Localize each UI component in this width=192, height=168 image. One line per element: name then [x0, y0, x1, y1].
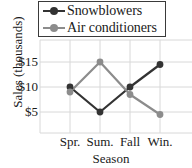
legend-marker-icon — [43, 4, 65, 17]
legend-marker-icon — [43, 21, 65, 34]
y-axis-tick-label: $10 — [2, 80, 38, 93]
data-point-marker — [127, 84, 134, 91]
legend-entry-air-conditioners: Air conditioners — [43, 19, 157, 36]
data-point-marker — [67, 89, 74, 96]
data-point-marker — [157, 111, 164, 118]
x-axis-title: Season — [56, 151, 166, 167]
y-axis-tick-label: $5 — [2, 105, 38, 118]
y-axis-ticks: $15$10$5 — [0, 0, 38, 168]
chart-legend: Snowblowers Air conditioners — [38, 1, 166, 37]
x-axis-tick-label: Win. — [140, 135, 180, 149]
data-point-marker — [127, 91, 134, 98]
y-axis-tick-label: $15 — [2, 55, 38, 68]
line-chart-figure: Snowblowers Air conditioners Sales (thou… — [0, 0, 192, 168]
data-point-marker — [157, 61, 164, 68]
legend-label: Snowblowers — [67, 3, 142, 18]
legend-entry-snowblowers: Snowblowers — [43, 2, 142, 19]
data-point-marker — [97, 109, 104, 116]
data-point-marker — [97, 59, 104, 66]
legend-label: Air conditioners — [67, 20, 157, 35]
